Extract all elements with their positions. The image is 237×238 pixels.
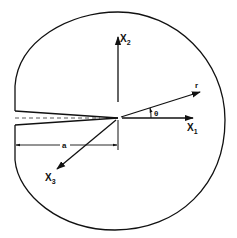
theta-arc-icon bbox=[150, 108, 151, 118]
x3-label: X3 bbox=[45, 172, 56, 185]
body-outline bbox=[15, 12, 225, 230]
crack-diagram: X2 X1 X3 r θ a bbox=[0, 0, 237, 238]
r-label: r bbox=[195, 81, 198, 90]
r-vector-arrow bbox=[121, 92, 200, 117]
x1-label: X1 bbox=[187, 122, 198, 135]
crack-lower-face bbox=[15, 118, 118, 125]
a-label: a bbox=[62, 141, 67, 150]
theta-label: θ bbox=[154, 109, 158, 118]
crack-upper-face bbox=[15, 111, 118, 118]
x2-label: X2 bbox=[120, 33, 131, 46]
